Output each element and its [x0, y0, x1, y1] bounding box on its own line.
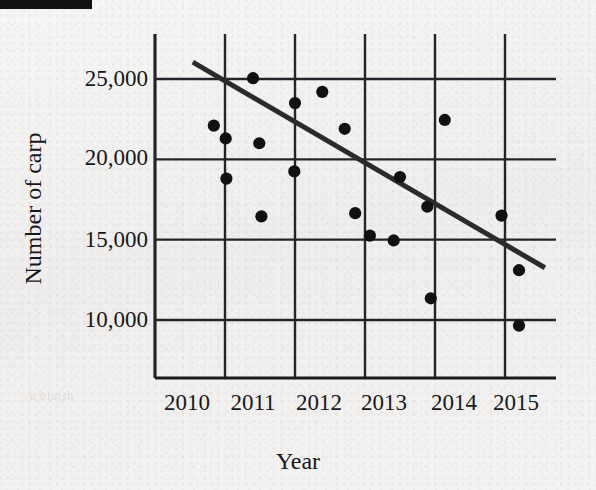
data-point — [253, 137, 265, 149]
data-point — [388, 234, 400, 246]
data-point — [288, 165, 300, 177]
data-point — [421, 201, 433, 213]
data-point — [339, 123, 351, 135]
data-point — [220, 132, 232, 144]
x-axis-title: Year — [0, 448, 596, 475]
data-point — [425, 292, 437, 304]
gridlines — [155, 34, 556, 378]
data-point — [247, 72, 259, 84]
data-point — [513, 320, 525, 332]
data-point — [316, 86, 328, 98]
data-point — [394, 171, 406, 183]
data-point — [208, 119, 220, 131]
data-point — [349, 207, 361, 219]
plot-canvas — [0, 0, 596, 490]
data-point — [495, 209, 507, 221]
data-point — [255, 210, 267, 222]
data-point — [289, 97, 301, 109]
data-points — [208, 72, 525, 332]
chart-figure: Number of carp 25,000 20,000 15,000 10,0… — [0, 0, 596, 490]
data-point — [364, 230, 376, 242]
data-point — [220, 173, 232, 185]
data-point — [439, 114, 451, 126]
data-point — [513, 264, 525, 276]
